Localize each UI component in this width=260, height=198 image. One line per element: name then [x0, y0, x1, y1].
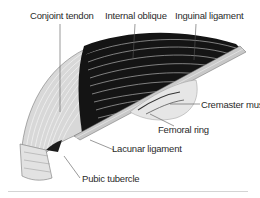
- label-internal-oblique: Internal oblique: [105, 10, 167, 21]
- label-inguinal-ligament: Inguinal ligament: [175, 10, 243, 21]
- label-pubic-tubercle: Pubic tubercle: [82, 173, 139, 184]
- label-femoral-ring: Femoral ring: [158, 124, 209, 135]
- label-lacunar-ligament: Lacunar ligament: [112, 143, 182, 154]
- label-conjoint-tendon: Conjoint tendon: [30, 10, 94, 21]
- inguinal-anatomy-diagram: Conjoint tendon Internal oblique Inguina…: [0, 0, 260, 198]
- bottom-divider: [8, 191, 248, 192]
- label-cremaster-muscle: Cremaster muscle: [201, 99, 260, 110]
